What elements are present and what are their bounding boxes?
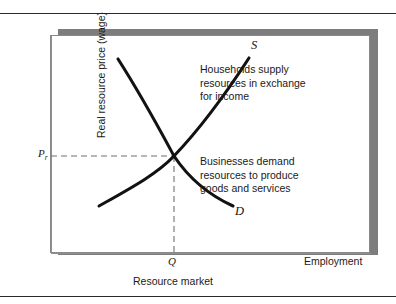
y-tick-label-equilibrium-price: Pr [38, 147, 48, 162]
y-tick-label-subscript: r [45, 153, 48, 162]
x-tick-label-equilibrium-quantity: Q [168, 255, 176, 267]
demand-curve-label: D [235, 204, 244, 219]
y-axis-label: Real resource price (wage) [95, 0, 107, 170]
x-axis-label: Employment [304, 255, 362, 267]
supply-annotation: Households supply resources in exchange … [200, 63, 332, 104]
figure-top-rule [0, 13, 396, 14]
demand-annotation: Businesses demand resources to produce g… [200, 155, 332, 196]
y-tick-label-text: P [38, 147, 45, 159]
supply-curve-label: S [251, 38, 257, 53]
figure-bottom-rule [0, 296, 396, 297]
figure-caption: Resource market [133, 275, 213, 287]
resource-market-figure: Real resource price (wage) Pr Q S D Hous… [0, 0, 396, 304]
